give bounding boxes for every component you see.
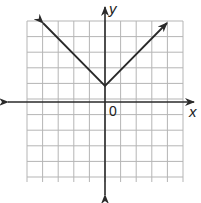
origin-label: 0 [109,103,117,119]
graph: y x 0 [0,0,201,203]
x-axis-label: x [189,103,197,120]
y-axis-label: y [109,0,117,17]
coordinate-plane [0,0,201,203]
